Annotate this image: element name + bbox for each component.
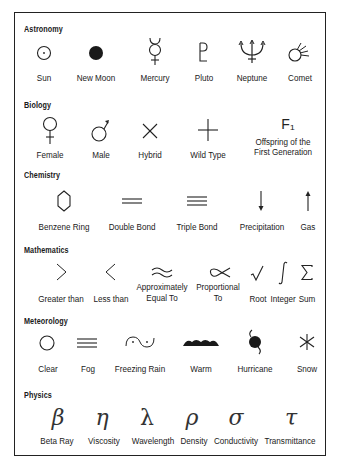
label-sun: Sun [37,73,51,83]
label-female: Female [37,150,64,160]
pluto-icon [195,40,211,64]
label-fog: Fog [81,364,95,374]
label-gas: Gas [301,222,316,232]
section-title-mathematics: Mathematics [24,245,69,255]
label-warm: Warm [190,364,211,374]
label-hurricane: Hurricane [237,364,272,374]
benzene-ring-icon [56,189,72,213]
label-conductivity: Conductivity [214,436,258,446]
label-integer: Integer [270,294,295,304]
root-icon [248,263,266,283]
label-root: Root [249,294,266,304]
wild-type-icon [196,117,220,143]
section-title-meteorology: Meteorology [24,316,68,326]
label-freezing-rain: Freezing Rain [115,364,165,374]
density-icon: ρ [180,405,204,431]
triple-bond-icon [185,194,209,208]
male-icon [90,118,112,144]
label-comet: Comet [288,73,312,83]
label-transmittance: Transmittance [265,436,316,446]
section-title-astronomy: Astronomy [24,24,63,34]
integer-icon [276,260,290,286]
warm-front-icon [181,335,221,349]
label-triple-bond: Triple Bond [176,222,217,232]
label-f1-line1: Offspring of the [255,137,310,147]
label-proportional-to-line2: To [214,293,223,303]
hybrid-icon [139,120,161,142]
fog-icon [75,337,99,349]
label-density: Density [181,436,208,446]
label-wavelength: Wavelength [132,436,174,446]
section-title-chemistry: Chemistry [24,170,60,180]
precipitation-icon [255,189,267,213]
label-proportional-to-line1: Proportional [196,282,240,292]
double-bond-icon [120,195,144,207]
label-viscosity: Viscosity [88,436,120,446]
label-greater-than: Greater than [38,294,83,304]
new-moon-icon [86,43,106,63]
label-f1-line2: First Generation [254,147,312,157]
freezing-rain-icon [123,333,157,351]
f1-icon: F₁ [276,114,300,134]
label-snow: Snow [297,364,317,374]
sun-icon [34,43,54,63]
clear-icon [37,333,57,353]
viscosity-icon: η [90,405,114,431]
snow-icon [296,331,318,353]
label-wild-type: Wild Type [190,150,225,160]
section-title-biology: Biology [24,100,51,110]
label-new-moon: New Moon [77,73,116,83]
neptune-icon [238,38,266,66]
wavelength-icon: λ [135,405,159,431]
label-neptune: Neptune [237,73,268,83]
sum-icon [299,263,315,281]
label-clear: Clear [38,364,57,374]
female-icon [40,115,60,147]
label-less-than: Less than [93,294,128,304]
mercury-icon [145,36,165,68]
beta-ray-icon: β [46,405,70,431]
gas-icon [302,189,314,213]
conductivity-icon: σ [224,405,248,431]
greater-than-icon [53,261,69,283]
label-male: Male [92,150,110,160]
label-hybrid: Hybrid [138,150,161,160]
label-sum: Sum [299,294,316,304]
label-double-bond: Double Bond [109,222,156,232]
label-precipitation: Precipitation [240,222,284,232]
less-than-icon [103,261,119,283]
proportional-to-icon [208,264,232,280]
label-benzene-ring: Benzene Ring [39,222,90,232]
label-approximately-equal-line1: Approximately [136,282,187,292]
section-title-physics: Physics [24,390,52,400]
label-beta-ray: Beta Ray [40,436,73,446]
symbols-chart-frame [14,12,326,456]
label-mercury: Mercury [140,73,169,83]
approximately-equal-icon [150,264,174,280]
label-pluto: Pluto [195,73,213,83]
comet-icon [286,40,312,64]
transmittance-icon: τ [279,405,303,431]
label-approximately-equal-line2: Equal To [146,293,177,303]
hurricane-icon [244,328,266,356]
